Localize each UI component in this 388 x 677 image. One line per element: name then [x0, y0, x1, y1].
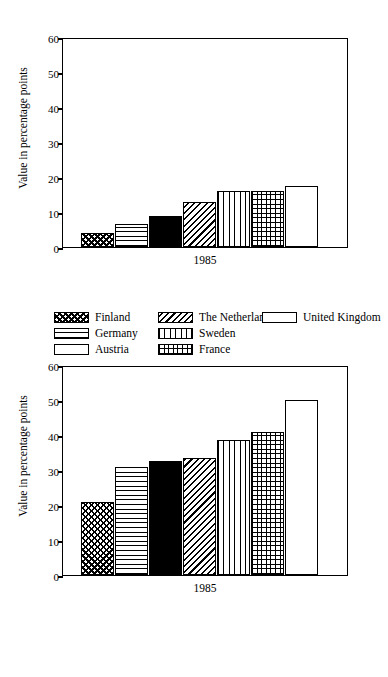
legend-item: Finland	[54, 310, 138, 325]
chart-1-bar-the-netherlands	[183, 202, 216, 248]
chart-1-bars	[63, 39, 347, 247]
chart-1-bar-finland	[81, 233, 114, 247]
chart-2-bar-ireland	[251, 432, 284, 576]
chart-1-bar-france	[251, 191, 284, 247]
chart-2-y-tickmark-40	[58, 436, 63, 437]
chart-1-plot-area: 0102030405060	[62, 38, 348, 248]
chart-2-bar-spain	[183, 458, 216, 575]
chart-1-bar-germany	[115, 224, 148, 247]
chart-1-bar-united-kingdom	[285, 186, 318, 247]
chart-2-y-tickmark-50	[58, 401, 63, 402]
chart-2-plot-area: 0102030405060	[62, 366, 348, 576]
chart-2-bars	[63, 367, 347, 575]
legend-label-finland: Finland	[95, 312, 130, 324]
chart-2-x-axis-label: 1985	[62, 582, 348, 594]
chart-1-y-tickmark-20	[58, 178, 63, 179]
legend-swatch-united-kingdom	[262, 312, 297, 323]
chart-2-y-tickmark-60	[58, 366, 63, 367]
legend-item: United Kingdom	[262, 310, 381, 325]
chart-2-bar-italy	[149, 461, 182, 575]
chart-2-bar-portugal	[217, 440, 250, 575]
legend-swatch-the-netherlands	[158, 312, 193, 323]
chart-1: Value in percentage points 0102030405060…	[0, 24, 388, 282]
figure-2: Value in percentage points 0102030405060…	[0, 352, 388, 610]
legend-swatch-finland	[54, 312, 89, 323]
chart-2-y-tickmark-20	[58, 506, 63, 507]
chart-1-y-tickmark-30	[58, 143, 63, 144]
legend-label-germany: Germany	[95, 328, 138, 340]
chart-2-bar-denmark	[81, 502, 114, 576]
chart-2-y-tickmark-0	[58, 576, 63, 577]
chart-1-y-tickmark-10	[58, 213, 63, 214]
legend-item: Germany	[54, 326, 138, 341]
chart-1-x-axis-label: 1985	[62, 254, 348, 266]
legend-swatch-germany	[54, 328, 89, 339]
chart-1-y-axis-label: Value in percentage points	[17, 43, 29, 213]
figure-1: Value in percentage points 0102030405060…	[0, 24, 388, 282]
chart-2-y-tickmark-10	[58, 541, 63, 542]
chart-2-bar-greece	[285, 400, 318, 575]
chart-2-y-axis-label: Value in percentage points	[17, 371, 29, 541]
chart-2-y-tickmark-30	[58, 471, 63, 472]
chart-1-y-tickmark-0	[58, 248, 63, 249]
chart-1-y-tickmark-60	[58, 38, 63, 39]
chart-2: Value in percentage points 0102030405060…	[0, 352, 388, 610]
legend-item: Sweden	[158, 326, 275, 341]
chart-1-bar-austria	[149, 216, 182, 248]
chart-1-y-tickmark-40	[58, 108, 63, 109]
legend-label-united-kingdom: United Kingdom	[303, 312, 381, 324]
chart-1-bar-sweden	[217, 191, 250, 247]
legend-item: The Netherlands	[158, 310, 275, 325]
legend-swatch-sweden	[158, 328, 193, 339]
legend-label-sweden: Sweden	[199, 328, 235, 340]
chart-2-bar-belgium	[115, 467, 148, 576]
chart-1-y-tickmark-50	[58, 73, 63, 74]
